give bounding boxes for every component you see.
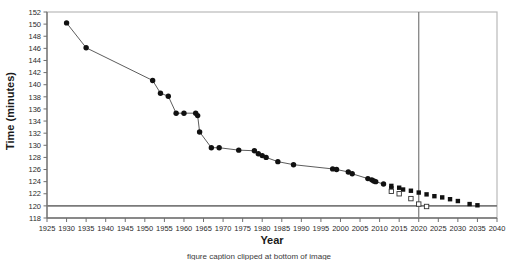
data-point xyxy=(440,195,444,199)
data-point xyxy=(389,189,393,193)
y-tick-label: 152 xyxy=(28,8,41,17)
x-tick-label: 1995 xyxy=(313,224,330,233)
data-point xyxy=(275,159,280,164)
data-point xyxy=(263,155,268,160)
x-tick-label: 2035 xyxy=(469,224,486,233)
figure-caption-text: figure caption clipped at bottom of imag… xyxy=(0,252,518,260)
x-tick-label: 1965 xyxy=(195,224,212,233)
y-tick-label: 120 xyxy=(28,202,41,211)
data-point xyxy=(409,196,413,200)
data-point xyxy=(373,179,378,184)
data-point xyxy=(475,203,479,207)
data-point xyxy=(197,129,202,134)
data-point xyxy=(456,199,460,203)
y-tick-label: 148 xyxy=(28,32,41,41)
data-point xyxy=(397,192,401,196)
y-tick-label: 126 xyxy=(28,165,41,174)
data-point xyxy=(381,181,386,186)
data-point xyxy=(209,145,214,150)
y-tick-label: 140 xyxy=(28,80,41,89)
data-point xyxy=(448,197,452,201)
data-point xyxy=(401,187,405,191)
x-tick-label: 1945 xyxy=(117,224,134,233)
data-point xyxy=(181,110,186,115)
x-tick-label: 2020 xyxy=(410,224,427,233)
x-tick-label: 2010 xyxy=(371,224,388,233)
data-point xyxy=(424,204,428,208)
x-tick-label: 1925 xyxy=(39,224,56,233)
y-tick-label: 122 xyxy=(28,189,41,198)
x-tick-label: 1940 xyxy=(97,224,114,233)
x-tick-label: 1980 xyxy=(254,224,271,233)
data-point xyxy=(417,202,421,206)
data-point xyxy=(158,90,163,95)
y-tick-label: 136 xyxy=(28,105,41,114)
data-point xyxy=(195,113,200,118)
y-tick-label: 144 xyxy=(28,56,41,65)
y-tick-label: 134 xyxy=(28,117,41,126)
x-tick-label: 2040 xyxy=(489,224,506,233)
data-point xyxy=(467,202,471,206)
data-point xyxy=(424,192,428,196)
x-tick-label: 1985 xyxy=(273,224,290,233)
data-point xyxy=(150,78,155,83)
data-point xyxy=(350,171,355,176)
chart-figure: Time (minutes) 1181201221241261281301321… xyxy=(0,0,518,260)
y-tick-label: 150 xyxy=(28,20,41,29)
y-tick-label: 138 xyxy=(28,93,41,102)
x-tick-label: 2000 xyxy=(332,224,349,233)
data-point xyxy=(173,110,178,115)
data-point xyxy=(216,145,221,150)
x-tick-label: 1935 xyxy=(78,224,95,233)
data-point xyxy=(83,45,88,50)
y-tick-label: 146 xyxy=(28,44,41,53)
x-tick-label: 1950 xyxy=(136,224,153,233)
x-tick-label: 1955 xyxy=(156,224,173,233)
data-point xyxy=(166,94,171,99)
y-tick-label: 130 xyxy=(28,141,41,150)
y-tick-label: 124 xyxy=(28,177,41,186)
x-tick-label: 2030 xyxy=(450,224,467,233)
y-tick-label: 132 xyxy=(28,129,41,138)
x-tick-label: 1970 xyxy=(215,224,232,233)
data-point xyxy=(236,147,241,152)
data-point xyxy=(409,189,413,193)
x-axis-title: Year xyxy=(47,234,497,246)
plot-frame xyxy=(47,12,497,218)
x-tick-label: 1990 xyxy=(293,224,310,233)
data-point xyxy=(64,20,69,25)
figure-caption-clipped: figure caption clipped at bottom of imag… xyxy=(0,252,518,260)
y-tick-label: 142 xyxy=(28,68,41,77)
x-tick-label: 1975 xyxy=(234,224,251,233)
x-tick-label: 2025 xyxy=(430,224,447,233)
data-point xyxy=(432,194,436,198)
data-point xyxy=(397,186,401,190)
x-tick-label: 1960 xyxy=(176,224,193,233)
x-tick-label: 1930 xyxy=(58,224,75,233)
x-tick-label: 2005 xyxy=(352,224,369,233)
data-point xyxy=(417,190,421,194)
x-tick-label: 2015 xyxy=(391,224,408,233)
plot-area: 1181201221241261281301321341361381401421… xyxy=(0,0,518,232)
data-point xyxy=(334,167,339,172)
y-tick-label: 128 xyxy=(28,153,41,162)
y-tick-label: 118 xyxy=(29,214,41,223)
data-point xyxy=(291,162,296,167)
